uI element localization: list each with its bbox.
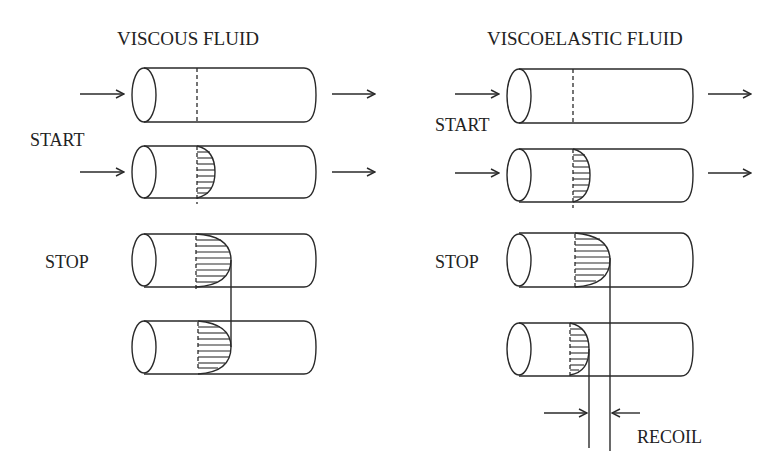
- viscous-tube-start: [80, 146, 375, 204]
- viscoelastic-tube-initial: [455, 69, 751, 123]
- recoil-label: RECOIL: [637, 427, 702, 447]
- viscoelastic-stop-label: STOP: [435, 252, 479, 272]
- viscoelastic-tube-start: [455, 149, 751, 208]
- viscous-stop-label: STOP: [45, 252, 89, 272]
- viscoelastic-tube-stop: [507, 233, 693, 290]
- fluid-flow-diagram: VISCOUS FLUID START STOP: [0, 0, 779, 469]
- viscous-title: VISCOUS FLUID: [117, 28, 259, 49]
- viscoelastic-panel: VISCOELASTIC FLUID START STOP RECOIL: [435, 28, 751, 451]
- viscoelastic-title: VISCOELASTIC FLUID: [487, 28, 683, 49]
- viscous-tube-after-stop: [132, 321, 316, 374]
- viscous-tube-initial: [80, 68, 375, 122]
- viscous-start-label: START: [30, 130, 84, 150]
- viscoelastic-start-label: START: [435, 115, 489, 135]
- viscous-panel: VISCOUS FLUID START STOP: [30, 28, 375, 374]
- viscous-tube-stop: [132, 234, 316, 290]
- viscoelastic-tube-after-stop: [507, 323, 693, 376]
